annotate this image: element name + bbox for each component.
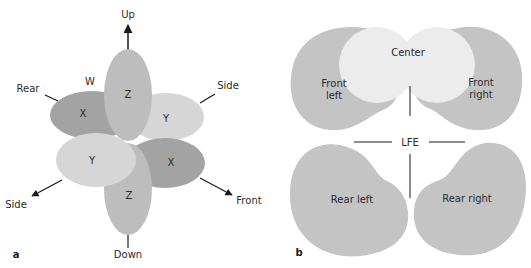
label-center: Center: [391, 47, 426, 58]
front-arrow-icon: [200, 178, 232, 195]
label-rear: Rear: [17, 83, 41, 94]
panel-label-b: b: [295, 247, 302, 258]
label-rear-right: Rear right: [442, 193, 492, 204]
figure-canvas: Up Down Rear Side Side Front W X Z Y Y X…: [0, 0, 531, 268]
label-z-down: Z: [126, 190, 133, 201]
label-w: W: [85, 76, 95, 87]
label-down: Down: [114, 249, 142, 260]
label-y-left: Y: [88, 155, 96, 166]
rear-line: [45, 95, 58, 101]
side-left-arrow-icon: [32, 180, 62, 196]
lobe-y-left: [56, 133, 136, 187]
panel-label-a: a: [13, 249, 20, 260]
label-rear-left: Rear left: [331, 194, 373, 205]
side-right-line: [200, 94, 215, 103]
label-front: Front: [236, 195, 261, 206]
label-lfe: LFE: [401, 137, 419, 148]
label-front-left-2: left: [326, 90, 342, 101]
label-front-left-1: Front: [321, 78, 346, 89]
label-front-right-2: right: [469, 89, 493, 100]
label-front-right-1: Front: [468, 77, 493, 88]
label-side-right: Side: [217, 80, 239, 91]
panel-a: Up Down Rear Side Side Front W X Z Y Y X…: [5, 9, 262, 260]
label-up: Up: [121, 9, 135, 20]
label-y-right: Y: [162, 113, 170, 124]
label-x-front: X: [168, 157, 175, 168]
label-z-up: Z: [125, 89, 132, 100]
panel-b: Center Front left Front right LFE Rear l…: [290, 27, 526, 258]
label-side-left: Side: [5, 199, 27, 210]
label-x-rear: X: [80, 108, 87, 119]
